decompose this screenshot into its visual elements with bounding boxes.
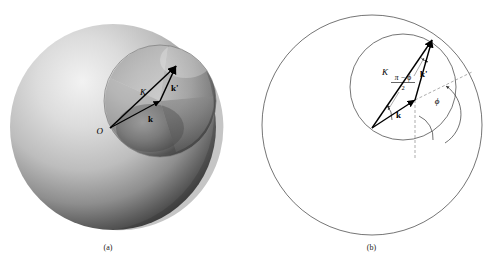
panel-b-graphic: K k k' π − ϕ 2 ϕ — [248, 0, 495, 240]
angle-arc-phi-b — [445, 86, 461, 143]
label-k-prime-b: k' — [420, 69, 428, 79]
label-K-a: K — [139, 87, 147, 97]
panel-a: O K k k' (a) — [0, 0, 248, 264]
half-angle-denominator: 2 — [401, 84, 404, 91]
angle-arc-phi-inner-b — [419, 116, 433, 140]
label-phi-b: ϕ — [435, 96, 440, 106]
panel-a-graphic: O K k k' — [0, 0, 248, 240]
panel-b: K k k' π − ϕ 2 ϕ (b) — [248, 0, 495, 264]
label-k-prime-a: k' — [171, 83, 179, 93]
caption-a: (a) — [0, 243, 232, 252]
label-K-b: K — [381, 67, 389, 77]
vector-k-b — [372, 100, 415, 128]
half-angle-numerator: π − ϕ — [395, 73, 412, 82]
outer-circle-b — [262, 15, 482, 235]
label-k-a: k — [148, 114, 153, 124]
label-origin-a: O — [97, 126, 104, 136]
label-k-b: k — [396, 110, 401, 120]
figure-root: O K k k' (a) — [0, 0, 495, 264]
caption-b: (b) — [248, 243, 495, 252]
